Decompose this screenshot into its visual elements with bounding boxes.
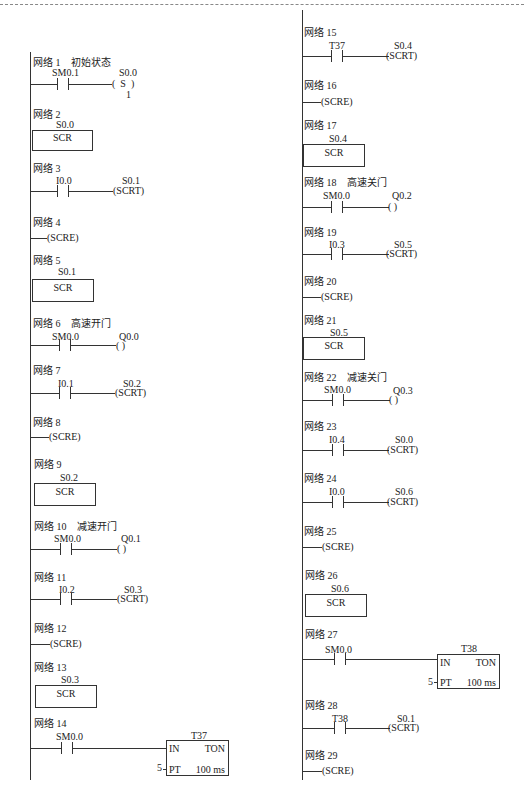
scr-address: S0.2 bbox=[60, 472, 78, 483]
scr-box[interactable]: SCR bbox=[303, 144, 365, 167]
scre-coil[interactable]: (SCRE) bbox=[322, 765, 354, 776]
network-12-title: 网络 12 bbox=[34, 620, 67, 635]
wire bbox=[30, 191, 57, 192]
scr-address: S0.3 bbox=[61, 674, 79, 685]
network-27-title: 网络 27 bbox=[305, 626, 338, 641]
contact-no[interactable] bbox=[331, 248, 343, 260]
wire bbox=[69, 84, 112, 85]
network-19-title: 网络 19 bbox=[304, 224, 337, 239]
wire bbox=[163, 769, 166, 770]
scre-coil[interactable]: (SCRE) bbox=[321, 96, 353, 107]
output-coil[interactable]: ( ) bbox=[117, 543, 126, 554]
network-3-title: 网络 3 bbox=[33, 160, 61, 175]
contact-label: SM0.0 bbox=[323, 190, 350, 201]
scre-coil[interactable]: (SCRE) bbox=[49, 431, 81, 442]
contact-no[interactable] bbox=[57, 185, 69, 197]
set-coil[interactable]: ( S ) bbox=[112, 78, 134, 89]
contact-no[interactable] bbox=[332, 394, 344, 406]
wire bbox=[302, 297, 321, 298]
contact-no[interactable] bbox=[334, 722, 346, 734]
network-20-title: 网络 20 bbox=[304, 273, 337, 288]
network-6-title: 网络 6高速开门 bbox=[33, 315, 111, 330]
scr-box[interactable]: SCR bbox=[34, 483, 96, 506]
timer-pt-pin: PT bbox=[169, 764, 181, 775]
scrt-coil[interactable]: (SCRT) bbox=[386, 248, 417, 259]
wire bbox=[30, 84, 57, 85]
wire bbox=[30, 437, 49, 438]
network-23-title: 网络 23 bbox=[304, 418, 337, 433]
wire bbox=[302, 254, 331, 255]
contact-no[interactable] bbox=[59, 387, 71, 399]
contact-no[interactable] bbox=[332, 444, 344, 456]
timer-base: 100 ms bbox=[467, 677, 496, 688]
scre-coil[interactable]: (SCRE) bbox=[321, 291, 353, 302]
network-16-title: 网络 16 bbox=[304, 77, 337, 92]
scre-coil[interactable]: (SCRE) bbox=[47, 232, 79, 243]
scr-box[interactable]: SCR bbox=[32, 130, 93, 151]
scre-coil[interactable]: (SCRE) bbox=[322, 541, 354, 552]
contact-no[interactable] bbox=[60, 543, 72, 555]
timer-base: 100 ms bbox=[196, 764, 225, 775]
wire bbox=[302, 502, 332, 503]
wire bbox=[344, 400, 390, 401]
wire bbox=[30, 345, 59, 346]
scr-address: S0.0 bbox=[56, 119, 74, 130]
scrt-coil[interactable]: (SCRT) bbox=[117, 593, 148, 604]
contact-no[interactable] bbox=[60, 593, 72, 605]
wire bbox=[302, 56, 331, 57]
wire bbox=[30, 748, 61, 749]
contact-no[interactable] bbox=[57, 78, 69, 90]
contact-no[interactable] bbox=[331, 50, 343, 62]
scr-box[interactable]: SCR bbox=[303, 337, 365, 360]
timer-type: TON bbox=[205, 743, 225, 754]
coil-address: Q0.2 bbox=[392, 190, 412, 201]
contact-label: SM0.0 bbox=[56, 731, 83, 742]
contact-no[interactable] bbox=[59, 339, 71, 351]
scrt-coil[interactable]: (SCRT) bbox=[387, 496, 418, 507]
network-29-title: 网络 29 bbox=[305, 747, 338, 762]
ton-timer-box[interactable]: IN TON PT 100 ms bbox=[166, 740, 229, 776]
network-28-title: 网络 28 bbox=[305, 697, 338, 712]
wire bbox=[343, 254, 389, 255]
scr-box[interactable]: SCR bbox=[32, 279, 94, 302]
wire bbox=[72, 549, 117, 550]
output-coil[interactable]: ( ) bbox=[388, 201, 397, 212]
network-5-title: 网络 5 bbox=[33, 252, 61, 267]
network-9-title: 网络 9 bbox=[34, 456, 62, 471]
output-coil[interactable]: ( ) bbox=[389, 394, 398, 405]
wire bbox=[302, 728, 334, 729]
timer-pt-pin: PT bbox=[440, 677, 452, 688]
wire bbox=[30, 238, 47, 239]
scrt-coil[interactable]: (SCRT) bbox=[113, 185, 144, 196]
scr-box[interactable]: SCR bbox=[35, 685, 97, 708]
timer-type: TON bbox=[476, 657, 496, 668]
scrt-coil[interactable]: (SCRT) bbox=[388, 722, 419, 733]
wire bbox=[302, 400, 332, 401]
wire bbox=[434, 682, 437, 683]
coil-address: S0.0 bbox=[119, 67, 137, 78]
scr-address: S0.4 bbox=[329, 133, 347, 144]
contact-no[interactable] bbox=[61, 742, 73, 754]
timer-in-pin: IN bbox=[440, 657, 451, 668]
network-21-title: 网络 21 bbox=[304, 312, 337, 327]
contact-label: SM0.1 bbox=[52, 67, 79, 78]
wire bbox=[343, 56, 389, 57]
scrt-coil[interactable]: (SCRT) bbox=[386, 50, 417, 61]
ton-timer-box[interactable]: IN TON PT 100 ms bbox=[437, 654, 500, 689]
scr-address: S0.1 bbox=[58, 266, 76, 277]
contact-no[interactable] bbox=[331, 201, 343, 213]
wire bbox=[346, 728, 390, 729]
wire bbox=[72, 599, 117, 600]
output-coil[interactable]: ( ) bbox=[116, 340, 125, 351]
scr-box[interactable]: SCR bbox=[305, 594, 367, 617]
wire bbox=[302, 102, 321, 103]
wire bbox=[73, 748, 166, 749]
wire bbox=[302, 207, 331, 208]
contact-no[interactable] bbox=[332, 496, 344, 508]
wire bbox=[302, 450, 332, 451]
scrt-coil[interactable]: (SCRT) bbox=[115, 387, 146, 398]
scr-address: S0.6 bbox=[331, 583, 349, 594]
contact-no[interactable] bbox=[334, 653, 346, 665]
scrt-coil[interactable]: (SCRT) bbox=[387, 444, 418, 455]
scre-coil[interactable]: (SCRE) bbox=[50, 638, 82, 649]
